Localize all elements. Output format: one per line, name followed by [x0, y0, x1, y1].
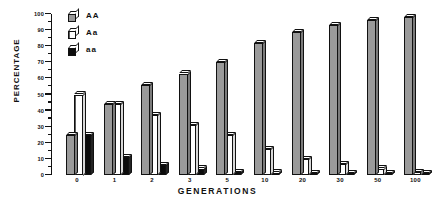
bar-side-face — [75, 132, 78, 175]
bar-side-face — [338, 22, 341, 175]
bar-front-face — [66, 135, 75, 175]
legend-item-Aa: Aa — [68, 26, 100, 40]
legend-item-AA: AA — [68, 9, 100, 23]
bar-group — [367, 14, 401, 175]
cube-icon-black — [68, 45, 79, 56]
bar-side-face — [188, 70, 191, 175]
y-tick-major — [45, 142, 51, 143]
bar-group — [104, 14, 138, 175]
y-tick-minor — [48, 37, 52, 38]
y-tick-major — [45, 77, 51, 78]
bar-group — [141, 14, 175, 175]
genotype-frequency-bar-chart: PERCENTAGE 0102030405060708090100 012351… — [0, 0, 435, 213]
x-tick-label: 5 — [212, 177, 242, 183]
y-tick-label: 40 — [37, 108, 44, 114]
cube-icon-hatched — [68, 28, 79, 39]
y-tick-major — [45, 93, 51, 94]
legend-label-AA: AA — [86, 12, 100, 20]
bar-front-face — [254, 43, 263, 175]
x-tick-label: 3 — [175, 177, 205, 183]
y-tick-minor — [48, 101, 52, 102]
y-tick-major — [45, 45, 51, 46]
bar-side-face — [91, 132, 94, 175]
y-tick-minor — [48, 69, 52, 70]
bar-front-face — [179, 74, 188, 175]
legend-item-aa: aa — [68, 43, 100, 57]
bar-side-face — [376, 17, 379, 175]
bar-group — [329, 14, 363, 175]
bar-front-face — [329, 25, 338, 175]
y-tick-minor — [48, 117, 52, 118]
bar-front-face — [292, 32, 301, 175]
x-tick-label: 1 — [100, 177, 130, 183]
y-tick-major — [45, 29, 51, 30]
bar-side-face — [129, 154, 132, 175]
y-tick-label: 10 — [37, 156, 44, 162]
bar-side-face — [83, 91, 86, 175]
x-tick-label: 30 — [325, 177, 355, 183]
bar-side-face — [225, 59, 228, 175]
x-axis-title: GENERATIONS — [0, 186, 435, 196]
bar-group — [404, 14, 435, 175]
x-tick-label: 50 — [363, 177, 393, 183]
bar-top-face — [292, 29, 304, 32]
legend: AA Aa aa — [68, 9, 100, 60]
bar-side-face — [413, 14, 416, 175]
y-tick-minor — [48, 85, 52, 86]
y-tick-label: 50 — [37, 92, 44, 98]
y-tick-major — [45, 109, 51, 110]
x-tick-label: 100 — [400, 177, 430, 183]
bar-group — [292, 14, 326, 175]
y-tick-major — [45, 61, 51, 62]
y-axis-line — [51, 14, 52, 175]
y-tick-major — [45, 126, 51, 127]
bar-front-face — [104, 104, 113, 175]
y-tick-label: 30 — [37, 124, 44, 130]
y-tick-major — [45, 174, 51, 175]
y-tick-minor — [48, 150, 52, 151]
bar-front-face — [404, 17, 413, 175]
y-tick-major — [45, 13, 51, 14]
x-tick-label: 10 — [250, 177, 280, 183]
y-tick-label: 100 — [34, 11, 44, 17]
y-tick-label: 60 — [37, 75, 44, 81]
plot-area: 0102030405060708090100 0123510203050100 — [51, 14, 431, 175]
x-tick-label: 2 — [137, 177, 167, 183]
bar-side-face — [121, 101, 124, 175]
bar-group — [179, 14, 213, 175]
y-tick-label: 20 — [37, 140, 44, 146]
bar-group — [254, 14, 288, 175]
bar-side-face — [113, 101, 116, 175]
legend-label-Aa: Aa — [86, 29, 98, 37]
y-axis-title: PERCENTAGE — [12, 28, 21, 114]
x-tick-label: 20 — [288, 177, 318, 183]
y-tick-label: 80 — [37, 43, 44, 49]
x-tick-label: 0 — [62, 177, 92, 183]
bar-front-face — [367, 20, 376, 175]
y-tick-major — [45, 158, 51, 159]
y-tick-minor — [48, 53, 52, 54]
bar-side-face — [150, 82, 153, 175]
bar-side-face — [301, 29, 304, 175]
legend-label-aa: aa — [86, 46, 97, 54]
bar-side-face — [263, 40, 266, 175]
bar-side-face — [271, 146, 274, 175]
bar-front-face — [141, 85, 150, 175]
y-tick-minor — [48, 166, 52, 167]
bar-side-face — [196, 122, 199, 175]
bar-group — [216, 14, 250, 175]
y-tick-label: 90 — [37, 27, 44, 33]
y-tick-label: 70 — [37, 59, 44, 65]
bar-front-face — [216, 62, 225, 175]
y-tick-minor — [48, 134, 52, 135]
y-tick-label: 0 — [41, 172, 44, 178]
bar-side-face — [158, 112, 161, 175]
bar-side-face — [233, 132, 236, 175]
y-tick-minor — [48, 21, 52, 22]
cube-icon-gray — [68, 11, 79, 22]
